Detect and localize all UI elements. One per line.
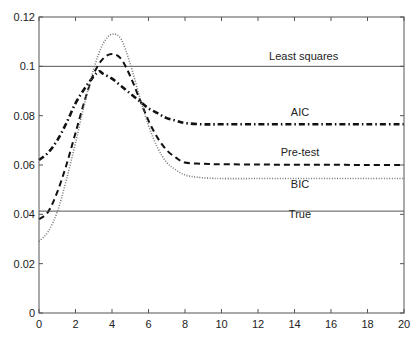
x-tick-label: 4 [109,318,115,330]
annotation-pre-test: Pre-test [281,146,320,158]
x-tick-label: 8 [182,318,188,330]
annotation-bic: BIC [291,178,309,190]
series-pre-test [39,54,404,219]
x-tick-label: 16 [325,318,337,330]
y-tick-label: 0.06 [14,159,35,171]
x-tick-label: 18 [361,318,373,330]
series-aic [39,71,404,160]
line-chart: 0246810121416182000.020.040.060.080.10.1… [0,0,417,338]
y-tick-label: 0.12 [14,11,35,23]
annotation-true: True [289,208,311,220]
series-layer [39,34,404,241]
y-tick-label: 0.04 [14,208,35,220]
annotations: Least squaresAICPre-testBICTrue [269,50,339,220]
x-tick-label: 2 [72,318,78,330]
x-tick-label: 0 [36,318,42,330]
x-tick-label: 6 [145,318,151,330]
x-tick-label: 20 [398,318,410,330]
y-tick-label: 0 [29,307,35,319]
x-tick-label: 10 [215,318,227,330]
series-bic [39,34,404,241]
x-tick-label: 12 [252,318,264,330]
annotation-least-squares: Least squares [269,50,339,62]
x-tick-label: 14 [288,318,300,330]
y-tick-label: 0.08 [14,110,35,122]
y-tick-label: 0.02 [14,258,35,270]
annotation-aic: AIC [291,106,309,118]
y-tick-label: 0.1 [20,60,35,72]
axes: 0246810121416182000.020.040.060.080.10.1… [14,11,411,330]
